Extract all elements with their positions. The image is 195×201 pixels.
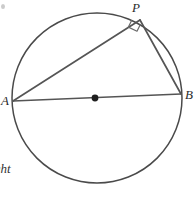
vertex-label-p: P [132,1,140,14]
vertex-label-b: B [185,88,193,101]
center-dot-icon [92,95,99,102]
segment-ap-chord [13,20,140,101]
clipped-caption-line-2: ght [0,162,11,175]
geometry-figure: A B P e ght [0,0,195,201]
vertex-label-a: A [1,94,9,107]
circle-geometry-diagram [0,0,195,201]
segment-pb-chord [140,20,181,94]
